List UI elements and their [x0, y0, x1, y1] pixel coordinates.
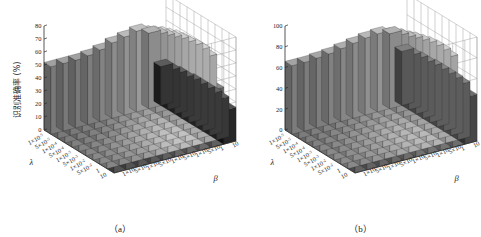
svg-text:20: 20 — [276, 106, 282, 113]
svg-text:10: 10 — [231, 140, 240, 149]
svg-text:70: 70 — [35, 35, 41, 42]
svg-text:1: 1 — [459, 144, 465, 152]
svg-text:1: 1 — [218, 144, 224, 152]
panel-b: 0204060801001×10-55×10-51×10-45×10-41×10… — [241, 0, 481, 237]
svg-text:30: 30 — [35, 87, 41, 94]
svg-text:40: 40 — [35, 74, 41, 81]
svg-text:λ: λ — [29, 157, 34, 167]
svg-text:60: 60 — [35, 48, 41, 55]
svg-text:λ: λ — [269, 157, 274, 167]
y-axis-label-a: 识别准确率 (%) — [11, 62, 22, 118]
svg-text:10: 10 — [99, 171, 108, 180]
svg-text:β: β — [213, 173, 219, 183]
bar3d-chart-b: 0204060801001×10-55×10-51×10-45×10-41×10… — [241, 0, 481, 237]
svg-text:β: β — [453, 173, 459, 183]
svg-text:10: 10 — [35, 113, 41, 120]
svg-text:80: 80 — [35, 22, 41, 29]
svg-text:20: 20 — [35, 100, 41, 107]
svg-text:80: 80 — [276, 43, 282, 50]
svg-text:60: 60 — [276, 64, 282, 71]
bar3d-chart-a: 010203040506070801×10-55×10-51×10-45×10-… — [0, 0, 241, 237]
panel-a: 010203040506070801×10-55×10-51×10-45×10-… — [0, 0, 241, 237]
panel-caption-b: （b） — [241, 222, 481, 235]
svg-text:50: 50 — [35, 61, 41, 68]
svg-text:40: 40 — [276, 85, 282, 92]
svg-text:100: 100 — [272, 22, 282, 29]
figure-root: 010203040506070801×10-55×10-51×10-45×10-… — [0, 0, 481, 237]
svg-text:10: 10 — [471, 140, 480, 149]
svg-text:10: 10 — [339, 171, 348, 180]
panel-caption-a: （a） — [0, 222, 241, 235]
